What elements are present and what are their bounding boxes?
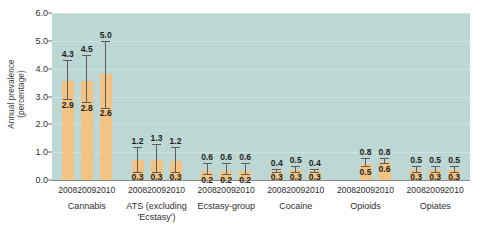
y-tick-label: 0.0	[18, 175, 48, 185]
y-tick-mark	[48, 13, 52, 14]
y-tick-mark	[48, 152, 52, 153]
error-bar-cap-upper	[310, 169, 319, 170]
upper-value-label: 0.6	[228, 152, 262, 162]
lower-value-label: 0.2	[228, 175, 262, 185]
error-bar-cap-upper	[63, 60, 72, 61]
error-bar-cap-upper	[203, 163, 212, 164]
y-tick-mark	[48, 96, 52, 97]
error-bar-line	[226, 163, 227, 174]
gridline	[52, 41, 470, 42]
y-tick-label: 2.0	[18, 119, 48, 129]
lower-value-label: 0.3	[437, 172, 471, 182]
error-bar-line	[156, 144, 157, 172]
error-bar-cap-upper	[412, 166, 421, 167]
error-bar-line	[137, 147, 138, 172]
gridline	[52, 124, 470, 125]
error-bar-line	[175, 147, 176, 172]
error-bar-cap-upper	[133, 147, 142, 148]
error-bar-cap-upper	[361, 158, 370, 159]
y-tick-mark	[48, 124, 52, 125]
y-tick-mark	[48, 68, 52, 69]
error-bar-line	[207, 163, 208, 174]
error-bar-cap-upper	[272, 169, 281, 170]
error-bar-line	[365, 158, 366, 166]
y-tick-label: 6.0	[18, 8, 48, 18]
error-bar-line	[67, 60, 68, 99]
error-bar-line	[86, 55, 87, 102]
error-bar-cap-upper	[431, 166, 440, 167]
upper-value-label: 4.5	[70, 44, 104, 54]
upper-value-label: 0.5	[437, 155, 471, 165]
annual-prevalence-chart: Annual prevalence (percentage) 0.01.02.0…	[0, 0, 500, 235]
upper-value-label: 1.2	[159, 136, 193, 146]
x-tick-label-year: 2010	[434, 185, 474, 195]
error-bar-cap-upper	[380, 158, 389, 159]
y-axis-ticks: 0.01.02.03.04.05.06.0	[16, 0, 48, 235]
y-tick-label: 1.0	[18, 147, 48, 157]
upper-value-label: 5.0	[89, 30, 123, 40]
error-bar-cap-upper	[171, 147, 180, 148]
error-bar-cap-upper	[450, 166, 459, 167]
error-bar-line	[245, 163, 246, 174]
lower-value-label: 2.6	[89, 108, 123, 118]
y-tick-label: 4.0	[18, 64, 48, 74]
upper-value-label: 0.4	[298, 158, 332, 168]
x-group-label: Opiates	[387, 201, 483, 212]
y-tick-label: 3.0	[18, 92, 48, 102]
error-bar-cap-upper	[241, 163, 250, 164]
error-bar-cap-upper	[101, 41, 110, 42]
y-tick-mark	[48, 180, 52, 181]
gridline	[52, 97, 470, 98]
lower-value-label: 0.3	[298, 172, 332, 182]
lower-value-label: 0.6	[368, 164, 402, 174]
error-bar-line	[105, 41, 106, 108]
y-tick-label: 5.0	[18, 36, 48, 46]
y-tick-mark	[48, 40, 52, 41]
gridline	[52, 13, 470, 14]
lower-value-label: 0.3	[159, 172, 193, 182]
gridline	[52, 69, 470, 70]
error-bar-cap-upper	[222, 163, 231, 164]
error-bar-cap-upper	[82, 55, 91, 56]
upper-value-label: 0.8	[368, 147, 402, 157]
